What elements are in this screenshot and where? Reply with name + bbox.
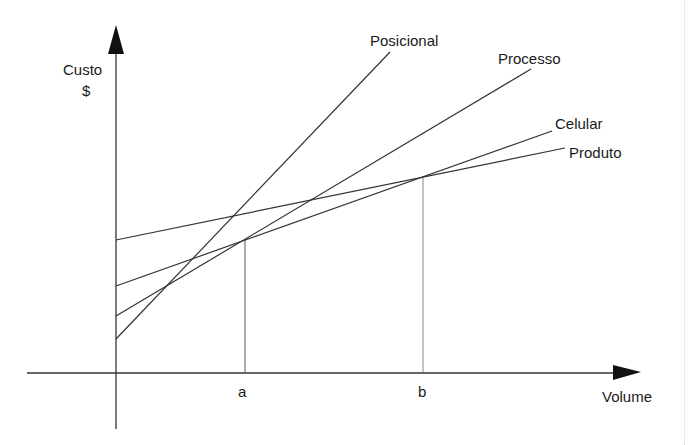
line-posicional bbox=[116, 52, 390, 339]
y-axis-arrow-icon bbox=[108, 25, 124, 54]
line-processo bbox=[116, 69, 531, 316]
line-label-processo: Processo bbox=[498, 50, 561, 67]
y-axis-label-currency: $ bbox=[82, 82, 91, 99]
x-axis-label-volume: Volume bbox=[602, 388, 652, 405]
cost-volume-diagram: Custo $ Volume a b Posicional Processo C… bbox=[0, 0, 690, 445]
x-axis-arrow-icon bbox=[613, 365, 641, 380]
line-label-posicional: Posicional bbox=[370, 32, 438, 49]
line-label-produto: Produto bbox=[569, 144, 622, 161]
line-produto bbox=[116, 148, 565, 240]
line-label-celular: Celular bbox=[555, 115, 603, 132]
page-edge-divider bbox=[684, 0, 685, 445]
line-celular bbox=[116, 131, 552, 286]
y-axis-label-custo: Custo bbox=[63, 61, 102, 78]
tick-label-b: b bbox=[418, 383, 426, 400]
tick-label-a: a bbox=[238, 383, 247, 400]
